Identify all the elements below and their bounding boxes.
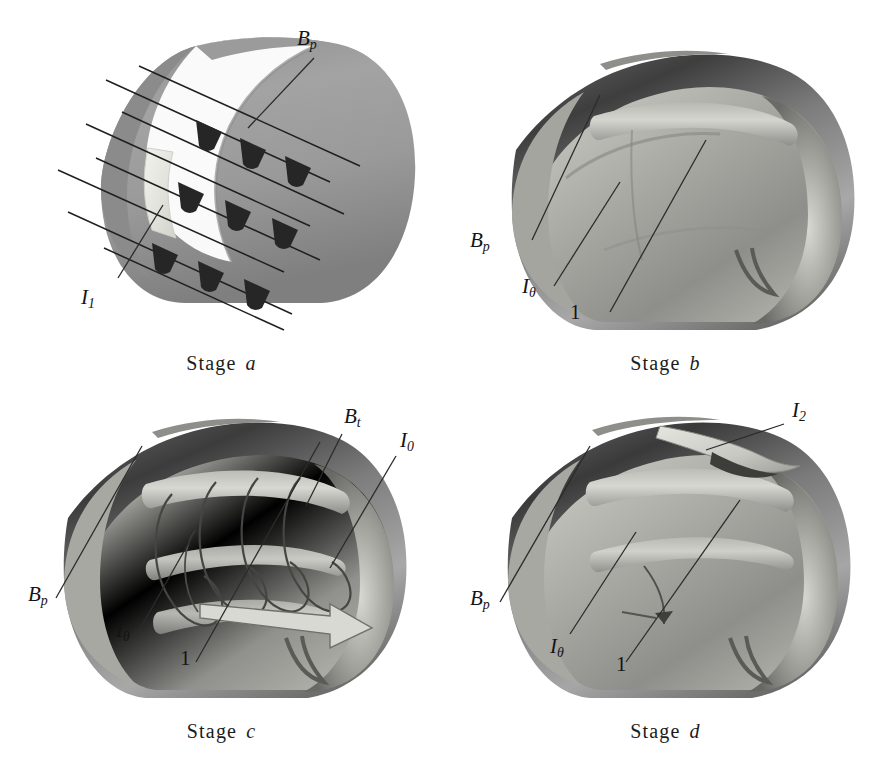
stage-d-illustration <box>444 390 887 774</box>
label-region-1-stage-d: 1 <box>616 652 627 677</box>
panel-stage-d: I2 Bp Iθ 1 Staged <box>444 390 887 774</box>
caption-letter: b <box>690 352 701 374</box>
caption-stage-b: Stageb <box>444 352 887 375</box>
caption-word: Stage <box>630 352 680 374</box>
label-Itheta-stage-c: Iθ <box>116 618 130 645</box>
caption-letter: a <box>246 352 257 374</box>
panel-stage-c: Bt I0 Bp Iθ 1 Stagec <box>0 390 443 774</box>
caption-stage-a: Stagea <box>0 352 443 375</box>
figure-four-stages: Bp I1 Stagea <box>0 0 887 774</box>
caption-stage-c: Stagec <box>0 720 443 743</box>
stage-a-illustration <box>0 0 443 390</box>
label-region-1-stage-c: 1 <box>180 646 191 671</box>
label-Bt-stage-c: Bt <box>344 404 361 431</box>
label-I0-stage-c: I0 <box>400 428 414 455</box>
caption-word: Stage <box>187 720 237 742</box>
caption-letter: d <box>690 720 701 742</box>
caption-letter: c <box>246 720 256 742</box>
liner-shell-b <box>512 51 855 330</box>
label-Bp-stage-c: Bp <box>28 582 48 609</box>
caption-stage-d: Staged <box>444 720 887 743</box>
caption-word: Stage <box>186 352 236 374</box>
label-I1-stage-a: I1 <box>81 285 95 312</box>
label-Bp-stage-b: Bp <box>470 228 490 255</box>
label-region-1-stage-b: 1 <box>570 300 581 325</box>
label-Itheta-stage-d: Iθ <box>550 634 564 661</box>
panel-stage-b: Bp Iθ 1 Stageb <box>444 0 887 390</box>
stage-b-illustration <box>444 0 887 390</box>
label-Bp-stage-a: Bp <box>297 26 317 53</box>
label-Bp-stage-d: Bp <box>470 586 490 613</box>
label-I2-stage-d: I2 <box>792 398 806 425</box>
panel-stage-a: Bp I1 Stagea <box>0 0 443 390</box>
liner-shell-c <box>64 419 407 698</box>
label-Itheta-stage-b: Iθ <box>522 274 536 301</box>
stage-c-illustration <box>0 390 443 774</box>
caption-word: Stage <box>630 720 680 742</box>
